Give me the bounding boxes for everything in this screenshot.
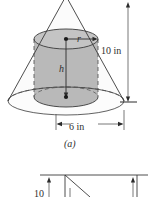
dim-diameter-arrowhead-right	[118, 122, 124, 126]
cylinder-center-dot-bottom	[64, 95, 68, 99]
dim-height-arrowhead-top	[126, 2, 130, 8]
lower-figure-partial-label: 10	[34, 189, 44, 197]
figure-caption-a: (a)	[64, 139, 76, 149]
lower-figure-diagonal	[65, 175, 90, 197]
figure-drawing	[0, 0, 148, 197]
cone-diameter-label: 6 in	[69, 122, 84, 132]
cylinder-height-label: h	[59, 64, 64, 74]
cylinder-radius-label: r	[77, 34, 81, 44]
dim-diameter-arrowhead-left	[57, 122, 63, 126]
cylinder-center-dot-top	[64, 37, 68, 41]
dim-height-arrowhead-bottom	[126, 97, 130, 103]
cone-height-label: 10 in	[101, 46, 121, 56]
geometry-figure: 10 in 6 in r h (a) 10	[0, 0, 148, 197]
lower-figure-dim-left-arrowhead	[47, 177, 51, 183]
lower-figure-dim-right-arrowhead	[131, 177, 135, 183]
